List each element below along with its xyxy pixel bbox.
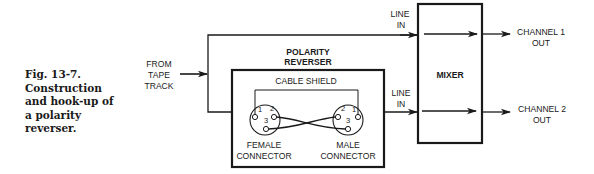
svg-text:LINE: LINE <box>391 88 410 98</box>
line-in-label-1: LINE IN <box>390 9 409 30</box>
svg-text:POLARITY: POLARITY <box>286 47 330 57</box>
svg-text:CONNECTOR: CONNECTOR <box>236 151 291 161</box>
svg-text:2: 2 <box>270 104 274 113</box>
female-connector: 1 2 3 <box>250 104 280 135</box>
female-connector-label: FEMALE CONNECTOR <box>236 140 291 161</box>
female-pin-3 <box>263 126 268 131</box>
svg-text:CONNECTOR: CONNECTOR <box>320 151 375 161</box>
svg-text:OUT: OUT <box>533 115 552 125</box>
svg-text:REVERSER: REVERSER <box>284 57 332 67</box>
mixer-label: MIXER <box>436 70 464 80</box>
svg-text:2: 2 <box>341 104 345 113</box>
male-connector: 2 1 3 <box>333 104 363 135</box>
male-connector-label: MALE CONNECTOR <box>320 140 375 161</box>
polarity-reverser-title: POLARITY REVERSER <box>284 47 332 67</box>
svg-text:FROM: FROM <box>146 59 171 69</box>
line-in-label-2: LINE IN <box>391 88 410 109</box>
svg-text:TRACK: TRACK <box>144 81 173 91</box>
male-pin-3 <box>345 126 350 131</box>
female-pin-2 <box>271 114 276 119</box>
svg-text:LINE: LINE <box>390 9 409 19</box>
svg-text:TAPE: TAPE <box>148 70 170 80</box>
svg-text:IN: IN <box>397 99 406 109</box>
channel-1-out-label: CHANNEL 1 OUT <box>517 27 565 48</box>
svg-text:1: 1 <box>352 105 356 114</box>
male-pin-1 <box>355 114 360 119</box>
svg-text:OUT: OUT <box>532 38 551 48</box>
svg-text:FEMALE: FEMALE <box>247 140 282 150</box>
female-pin-1 <box>252 114 257 119</box>
svg-text:CHANNEL 1: CHANNEL 1 <box>517 27 565 37</box>
male-pin-2 <box>335 114 340 119</box>
svg-text:MALE: MALE <box>336 140 360 150</box>
cable-shield-label: CABLE SHIELD <box>275 76 337 86</box>
svg-text:IN: IN <box>397 20 406 30</box>
polarity-reverser-diagram: FROM TAPE TRACK LINE IN LINE IN POLARITY… <box>0 0 594 174</box>
svg-text:3: 3 <box>346 116 350 125</box>
svg-text:3: 3 <box>264 116 268 125</box>
svg-text:1: 1 <box>258 105 262 114</box>
source-label: FROM TAPE TRACK <box>144 59 173 91</box>
channel-2-out-label: CHANNEL 2 OUT <box>518 104 566 125</box>
svg-text:CHANNEL 2: CHANNEL 2 <box>518 104 566 114</box>
